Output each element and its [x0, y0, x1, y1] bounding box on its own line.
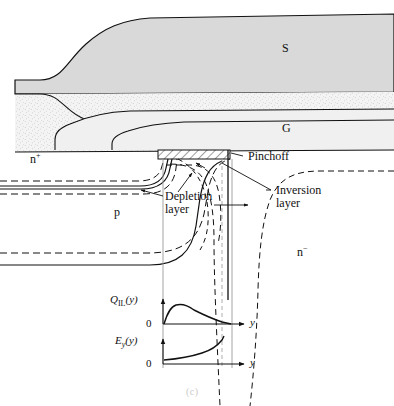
mosfet-pinchoff-figure: S G n+ p n− Pinchoff Depletion layer Inv…	[0, 0, 394, 406]
charge-plot-y-axis-label: QIL(y)	[110, 293, 138, 309]
field-plot-zero-label: 0	[146, 357, 152, 369]
region-n-minus-superscript: −	[303, 244, 308, 253]
region-n-plus: n+	[30, 152, 41, 166]
charge-plot-x-axis-label: y	[250, 316, 255, 328]
callout-depletion-layer-line-1: Depletion	[165, 190, 212, 203]
region-n-minus: n−	[297, 245, 308, 259]
field-plot-curve	[164, 336, 224, 360]
n-plus-junction-lines	[0, 159, 177, 194]
region-p-text: p	[114, 205, 120, 219]
callout-inversion-layer-line-1: Inversion	[276, 184, 321, 197]
gate-contact-label: G	[282, 122, 291, 135]
region-n-plus-superscript: +	[36, 151, 41, 160]
figure-caption: (c)	[186, 386, 199, 397]
callout-inversion-layer: Inversion layer	[276, 184, 321, 211]
charge-plot-argument: (y)	[126, 293, 138, 305]
charge-plot-zero-label: 0	[146, 317, 152, 329]
callout-depletion-layer: Depletion layer	[165, 190, 212, 217]
callout-pinchoff-line-1: Pinchoff	[248, 150, 289, 163]
pinchoff-boundary-curve	[250, 171, 394, 406]
gate-oxide-hatched	[158, 150, 230, 159]
field-plot-y-axis-label: Ey(y)	[115, 334, 138, 350]
field-plot-x-axis-label: y	[250, 356, 255, 368]
charge-plot-symbol: Q	[110, 293, 118, 305]
callout-inversion-layer-line-2: layer	[276, 197, 321, 210]
callout-depletion-layer-line-2: layer	[165, 203, 212, 216]
field-plot-argument: (y)	[125, 334, 137, 346]
field-plot-symbol: E	[115, 334, 122, 346]
charge-plot-curve	[164, 304, 231, 324]
region-p: p	[114, 206, 120, 219]
source-contact-layer	[15, 14, 394, 94]
vertical-reference-lines	[163, 150, 232, 368]
charge-plot-subscript: IL	[118, 299, 126, 308]
callout-pinchoff: Pinchoff	[248, 150, 289, 163]
gate-contact-layer	[55, 109, 394, 150]
source-contact-label: S	[282, 42, 289, 55]
